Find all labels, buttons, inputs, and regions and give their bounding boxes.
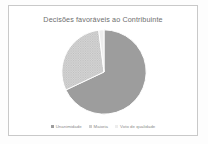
legend-item[interactable]: Unanimidade (51, 124, 82, 129)
legend-item-label: Unanimidade (56, 124, 82, 129)
legend-swatch-icon (89, 125, 92, 128)
chart-legend: UnanimidadeMaioriaVoto de qualidade (9, 124, 197, 129)
legend-item-label: Maioria (94, 124, 108, 129)
legend-item[interactable]: Maioria (89, 124, 108, 129)
pie-chart-plot-area (9, 24, 199, 120)
pie-slice-group (62, 30, 146, 114)
scanned-page: Decisões favoráveis ao Contribuinte Unan… (0, 0, 208, 144)
legend-swatch-icon (115, 125, 118, 128)
pie-chart (61, 29, 147, 115)
legend-swatch-icon (51, 125, 54, 128)
legend-item[interactable]: Voto de qualidade (115, 124, 155, 129)
legend-item-label: Voto de qualidade (120, 124, 155, 129)
pie-chart-svg (61, 29, 147, 115)
chart-frame: Decisões favoráveis ao Contribuinte Unan… (8, 5, 198, 136)
chart-title: Decisões favoráveis ao Contribuinte (9, 15, 197, 24)
